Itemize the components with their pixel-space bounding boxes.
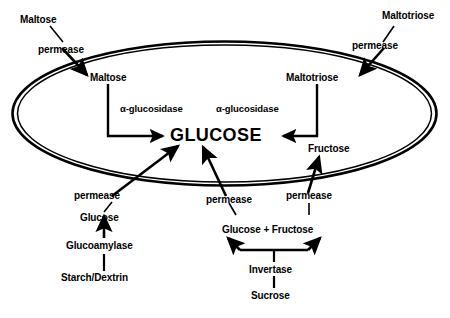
label-external-maltose: Maltose bbox=[20, 14, 57, 25]
glucose-permease-tick bbox=[104, 202, 112, 212]
maltotriose-transport-arrow bbox=[360, 48, 384, 75]
label-glucose-permease: permease bbox=[74, 190, 120, 201]
invertase-fork-left-arrow bbox=[228, 238, 240, 250]
glucose-transport-arrow bbox=[112, 146, 178, 196]
label-internal-maltotriose: Maltotriose bbox=[286, 72, 338, 83]
label-glucose-central: GLUCOSE bbox=[170, 126, 262, 145]
maltotriose-to-glucose-arrow bbox=[283, 84, 317, 136]
label-fructose-permease: permease bbox=[286, 190, 332, 201]
label-alpha-glucosidase-right: α-glucosidase bbox=[216, 103, 279, 114]
label-starch-dextrin: Starch/Dextrin bbox=[61, 272, 128, 283]
label-alpha-glucosidase-left: α-glucosidase bbox=[120, 103, 183, 114]
label-external-glucose: Glucose bbox=[80, 212, 119, 223]
label-glucoamylase: Glucoamylase bbox=[66, 240, 133, 251]
label-maltose-permease: permease bbox=[38, 44, 84, 55]
label-external-maltotriose: Maltotriose bbox=[382, 10, 434, 21]
label-internal-fructose: Fructose bbox=[308, 143, 349, 154]
maltose-permease-tick bbox=[50, 26, 63, 42]
label-internal-maltose: Maltose bbox=[90, 72, 127, 83]
label-invertase: Invertase bbox=[249, 264, 292, 275]
invertase-fork-right-arrow bbox=[308, 238, 320, 250]
label-sucrose: Sucrose bbox=[251, 290, 290, 301]
label-glucose-fructose-permease: permease bbox=[206, 194, 252, 205]
glucose-fructose-transport-arrow bbox=[203, 147, 226, 196]
label-maltotriose-permease: permease bbox=[352, 40, 398, 51]
pathway-diagram: Maltose permease Maltotriose permease Ma… bbox=[0, 0, 450, 318]
label-glucose-plus-fructose: Glucose + Fructose bbox=[222, 224, 313, 235]
